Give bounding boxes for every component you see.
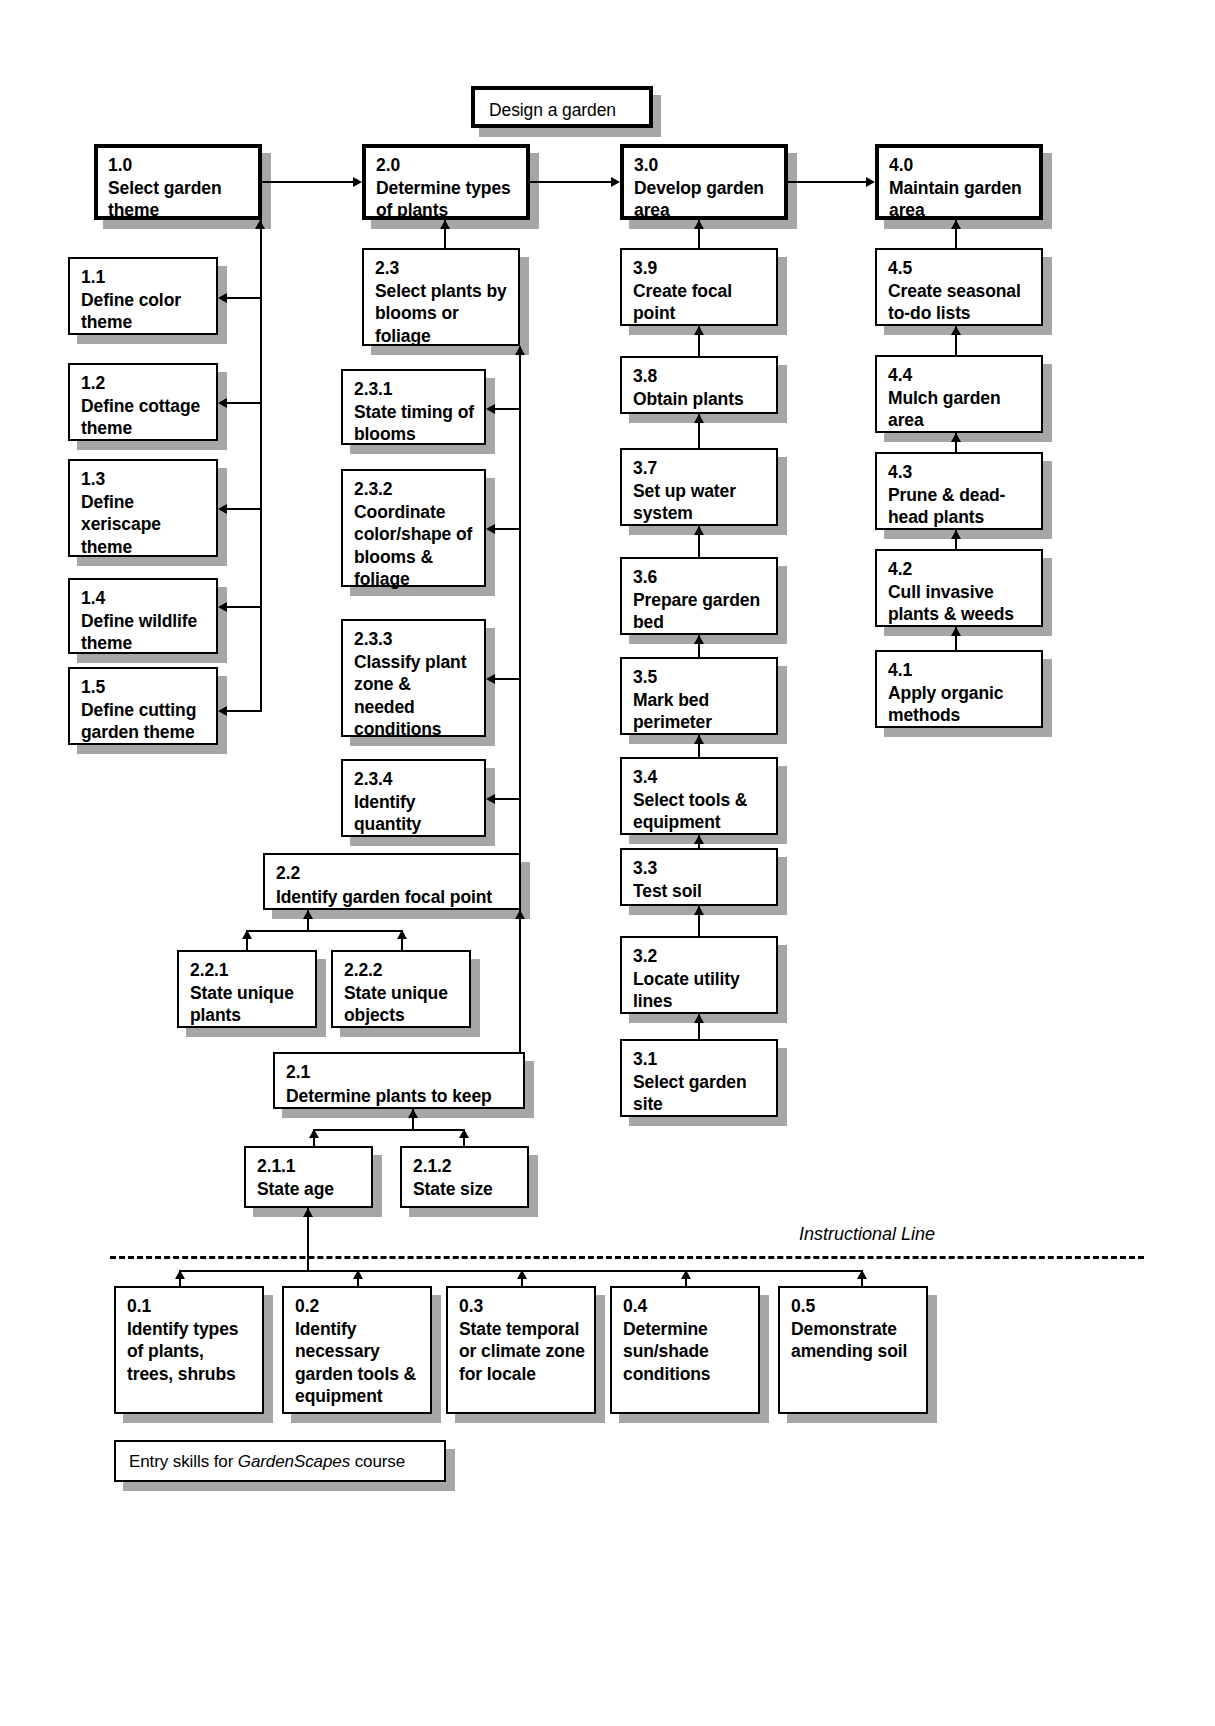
box-0-2-number: 0.2 [295,1295,421,1318]
col1-spine [260,220,262,712]
box-2-2-2: 2.2.2 State unique objects [331,950,471,1028]
arrowhead-2-2-2 [397,930,407,939]
arrowhead-0-4 [681,1270,691,1279]
box-3-7: 3.7 Set up water system [620,448,778,526]
box-2-3-2-number: 2.3.2 [354,478,475,501]
box-2-1-2-label: State size [413,1178,518,1201]
box-2-1-label: Determine plants to keep [286,1085,514,1108]
box-4-1-number: 4.1 [888,659,1032,682]
entry-caption-prefix: Entry skills for [129,1452,238,1471]
box-0-5-label: Demonstrate amending soil [791,1318,917,1363]
box-1-0-label: Select garden theme [108,177,249,222]
box-3-7-label: Set up water system [633,480,767,525]
box-1-2: 1.2 Define cottage theme [68,363,218,441]
box-3-1-label: Select garden site [633,1071,767,1116]
connector-2-1-to-2-2 [519,910,521,1052]
arrowhead-2-1-1 [309,1129,319,1138]
connector-3-to-4 [788,181,866,183]
box-1-3-label: Define xeriscape theme [81,491,207,559]
entry-skills-caption: Entry skills for GardenScapes course [114,1440,446,1482]
box-3-6-number: 3.6 [633,566,767,589]
box-2-3-number: 2.3 [375,257,509,280]
arrowhead-3-2-to-3-3 [694,906,704,915]
box-4-5-number: 4.5 [888,257,1032,280]
box-2-2-label: Identify garden focal point [276,886,510,909]
box-3-6-label: Prepare garden bed [633,589,767,634]
arrowhead-2-1-to-2-2 [515,910,525,919]
box-0-5: 0.5 Demonstrate amending soil [778,1286,928,1414]
box-1-5-label: Define cutting garden theme [81,699,207,744]
box-2-0-label: Determine types of plants [376,177,517,222]
box-3-4: 3.4 Select tools & equipment [620,757,778,835]
box-4-0-number: 4.0 [889,154,1030,177]
box-2-3-2-label: Coordinate color/shape of blooms & folia… [354,501,475,591]
box-0-2-label: Identify necessary garden tools & equipm… [295,1318,421,1408]
branch-1-3 [227,508,261,510]
arrowhead-2-3-1 [486,404,495,414]
box-3-2-number: 3.2 [633,945,767,968]
box-3-3-label: Test soil [633,880,767,903]
box-2-1-1-label: State age [257,1178,362,1201]
connector-2-1-bar [313,1129,465,1131]
box-3-4-label: Select tools & equipment [633,789,767,834]
branch-2-3-4 [495,798,520,800]
box-3-0-number: 3.0 [634,154,775,177]
box-1-5: 1.5 Define cutting garden theme [68,667,218,745]
arrowhead-2-2-stem [303,910,313,919]
box-3-2-label: Locate utility lines [633,968,767,1013]
box-4-4-number: 4.4 [888,364,1032,387]
instructional-line [110,1256,1144,1259]
entry-caption-course-name: GardenScapes [238,1452,350,1471]
box-0-4: 0.4 Determine sun/shade conditions [610,1286,760,1414]
box-4-3-label: Prune & dead-head plants [888,484,1032,529]
box-2-2-1: 2.2.1 State unique plants [177,950,317,1028]
box-0-4-label: Determine sun/shade conditions [623,1318,749,1386]
box-3-6: 3.6 Prepare garden bed [620,557,778,635]
box-2-1-2: 2.1.2 State size [400,1146,529,1208]
box-0-1: 0.1 Identify types of plants, trees, shr… [114,1286,264,1414]
arrowhead-entry-to-2-1-1 [303,1208,313,1217]
box-1-1-label: Define color theme [81,289,207,334]
box-3-8: 3.8 Obtain plants [620,356,778,414]
box-2-1-1-number: 2.1.1 [257,1155,362,1178]
arrowhead-2-to-3 [611,177,620,187]
box-0-1-label: Identify types of plants, trees, shrubs [127,1318,253,1386]
arrowhead-2-2-1 [242,930,252,939]
arrowhead-0-5 [857,1270,867,1279]
box-1-1: 1.1 Define color theme [68,257,218,335]
box-4-4: 4.4 Mulch garden area [875,355,1043,433]
connector-2-to-3 [530,181,611,183]
arrowhead-4-3-to-4-4 [951,433,961,442]
box-1-4-number: 1.4 [81,587,207,610]
box-2-0: 2.0 Determine types of plants [362,144,530,220]
connector-2-2-bar [246,930,403,932]
box-3-7-number: 3.7 [633,457,767,480]
branch-1-4 [227,606,261,608]
box-2-2: 2.2 Identify garden focal point [263,853,521,910]
box-2-0-number: 2.0 [376,154,517,177]
branch-2-3-2 [495,528,520,530]
arrowhead-3-6-to-3-7 [694,526,704,535]
connector-1-to-2 [262,181,353,183]
box-3-4-number: 3.4 [633,766,767,789]
box-2-2-2-label: State unique objects [344,982,460,1027]
arrowhead-1-2 [218,398,227,408]
branch-1-5 [227,710,261,712]
branch-1-1 [227,297,261,299]
box-0-1-number: 0.1 [127,1295,253,1318]
entry-caption-suffix: course [350,1452,405,1471]
box-1-4: 1.4 Define wildlife theme [68,578,218,654]
box-0-3: 0.3 State temporal or climate zone for l… [446,1286,596,1414]
box-2-3-1-label: State timing of blooms [354,401,475,446]
box-2-3-3: 2.3.3 Classify plant zone & needed condi… [341,619,486,737]
arrowhead-2-3-2 [486,524,495,534]
branch-2-3-3 [495,678,520,680]
box-3-1: 3.1 Select garden site [620,1039,778,1117]
box-1-0: 1.0 Select garden theme [94,144,262,220]
goal-label: Design a garden [489,99,635,122]
box-0-4-number: 0.4 [623,1295,749,1318]
box-0-3-label: State temporal or climate zone for local… [459,1318,585,1386]
box-3-5: 3.5 Mark bed perimeter [620,657,778,735]
box-2-3-1-number: 2.3.1 [354,378,475,401]
box-4-2-number: 4.2 [888,558,1032,581]
